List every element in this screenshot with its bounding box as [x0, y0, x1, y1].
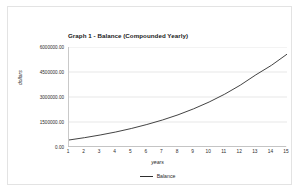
line-chart-svg — [69, 47, 287, 147]
legend-line-swatch — [140, 176, 153, 177]
x-axis-tick-label: 12 — [237, 149, 242, 155]
y-axis-tick-label: 6000000.00 — [40, 45, 64, 50]
x-axis-tick-label: 10 — [205, 149, 210, 155]
y-axis-tick-label: 0.00 — [55, 145, 64, 150]
x-axis-tick-label: 1 — [67, 149, 70, 155]
x-axis-tick-label: 8 — [176, 149, 179, 155]
y-axis-tick-label: 3000000.00 — [40, 95, 64, 100]
chart-frame: Graph 1 - Balance (Compounded Yearly) do… — [7, 6, 292, 185]
y-axis-tick-labels: 0.001500000.003000000.004500000.00600000… — [24, 43, 66, 151]
x-axis-tick-label: 7 — [160, 149, 163, 155]
x-axis-tick-label: 9 — [191, 149, 194, 155]
x-axis-tick-label: 14 — [268, 149, 273, 155]
chart-legend: Balance — [8, 173, 299, 180]
x-axis-tick-label: 15 — [283, 149, 288, 155]
x-axis-tick-label: 3 — [98, 149, 101, 155]
x-axis-tick-label: 13 — [252, 149, 257, 155]
x-axis-tick-label: 5 — [129, 149, 132, 155]
chart-title: Graph 1 - Balance (Compounded Yearly) — [68, 32, 268, 40]
x-axis-tick-label: 11 — [221, 149, 226, 155]
y-axis-title: dollars — [17, 70, 23, 85]
x-axis-title: years — [8, 159, 299, 166]
x-axis-tick-label: 6 — [145, 149, 148, 155]
x-axis-tick-label: 4 — [113, 149, 116, 155]
x-axis-tick-labels: 123456789101112131415 — [68, 149, 286, 159]
legend-item-label: Balance — [157, 173, 176, 180]
plot-area — [68, 47, 286, 147]
y-axis-tick-label: 4500000.00 — [40, 70, 64, 75]
chart-screenshot: Graph 1 - Balance (Compounded Yearly) do… — [0, 0, 299, 192]
gridlines — [69, 47, 287, 147]
y-axis-tick-label: 1500000.00 — [40, 120, 64, 125]
x-axis-tick-label: 2 — [82, 149, 85, 155]
